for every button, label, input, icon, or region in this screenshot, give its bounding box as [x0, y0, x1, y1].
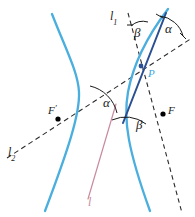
label-focus-F-prime-mark: ′	[55, 103, 57, 113]
focus-F-prime	[55, 116, 60, 121]
label-beta-top: β	[134, 26, 140, 39]
label-focus-F: F	[168, 105, 175, 116]
label-beta-lower: β	[136, 118, 142, 131]
label-alpha-top: α	[165, 22, 172, 35]
tangency-point-P	[139, 64, 144, 69]
label-l2: l2	[8, 146, 15, 161]
label-focus-F-prime: F′	[48, 105, 57, 116]
hyperbola-right-branch	[126, 9, 168, 211]
label-l1: l1	[110, 10, 117, 25]
label-point-P: P	[148, 68, 155, 79]
focus-F	[160, 111, 165, 116]
hyperbola-reflection-figure: l1 β α P α β F′ F l2 l	[0, 0, 195, 217]
label-l1-subscript: 1	[113, 18, 117, 27]
label-alpha-center: α	[103, 96, 110, 109]
tangent-line-at-P	[123, 13, 166, 123]
angle-tick-alpha-top-right	[180, 33, 186, 39]
dashed-line-through-F-prime-and-P	[7, 38, 192, 158]
label-focus-F-prime-text: F	[48, 104, 55, 116]
label-l-pink: l	[88, 196, 91, 208]
label-l2-subscript: 2	[11, 154, 15, 163]
pink-line-l	[88, 104, 116, 199]
